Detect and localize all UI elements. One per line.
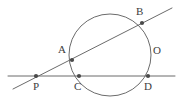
point-label-d: D [144,81,152,92]
point-label-a: A [58,44,66,55]
point-label-c: C [74,81,81,92]
point-marker-p [34,74,38,78]
point-marker-c [77,74,81,78]
geometry-figure: P C D A B O [0,0,182,105]
circle-label-o: O [153,45,161,56]
point-label-b: B [136,6,143,17]
point-label-p: P [33,81,39,92]
point-marker-d [146,74,150,78]
point-marker-a [70,58,74,62]
point-marker-b [140,21,144,25]
